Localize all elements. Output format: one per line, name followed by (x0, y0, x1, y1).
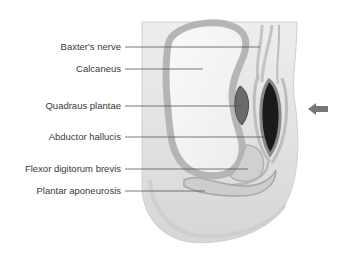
label-quadraus-plantae: Quadraus plantae (45, 100, 121, 111)
calcaneus-bone (166, 23, 246, 176)
label-flexor-digitorum-brevis: Flexor digitorum brevis (25, 163, 121, 174)
label-calcaneus: Calcaneus (76, 63, 121, 74)
anatomy-figure: Baxter's nerve Calcaneus Quadraus planta… (0, 0, 345, 253)
label-plantar-aponeurosis: Plantar aponeurosis (37, 185, 122, 196)
arrow-left-icon (308, 103, 328, 115)
label-baxters-nerve: Baxter's nerve (61, 41, 121, 52)
abductor-hallucis-muscle (261, 80, 280, 155)
label-abductor-hallucis: Abductor hallucis (49, 131, 121, 142)
heel-cross-section (0, 0, 345, 253)
